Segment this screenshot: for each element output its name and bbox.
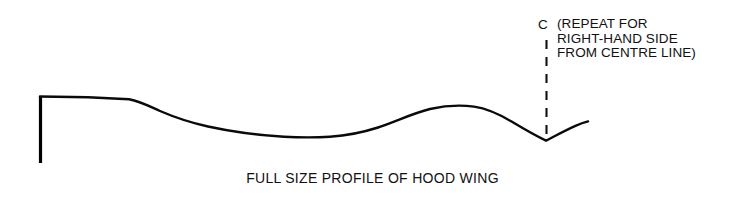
repeat-note-line-3: FROM CENTRE LINE) bbox=[557, 46, 696, 61]
repeat-note-line-1: (REPEAT FOR bbox=[557, 17, 696, 32]
figure-caption: FULL SIZE PROFILE OF HOOD WING bbox=[0, 170, 745, 186]
centre-line-label: C bbox=[538, 18, 548, 33]
repeat-note-line-2: RIGHT-HAND SIDE bbox=[557, 32, 696, 47]
repeat-note: (REPEAT FOR RIGHT-HAND SIDE FROM CENTRE … bbox=[557, 17, 696, 61]
